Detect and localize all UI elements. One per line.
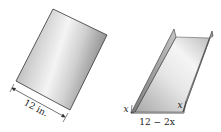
sheet-width-label: 12 in. — [22, 98, 50, 119]
gutter-side-label-left: x — [123, 104, 128, 114]
folded-gutter: x x 12 − 2x — [123, 29, 213, 127]
gutter-diagram: 12 in. x x 12 − 2x — [0, 0, 221, 132]
sheet-width-extension-right — [63, 113, 68, 122]
gutter-side-label-right: x — [177, 100, 182, 110]
gutter-floor — [135, 37, 210, 112]
flat-sheet: 12 in. — [10, 9, 107, 122]
gutter-base-label: 12 − 2x — [139, 117, 175, 127]
sheet-shape — [16, 9, 107, 110]
